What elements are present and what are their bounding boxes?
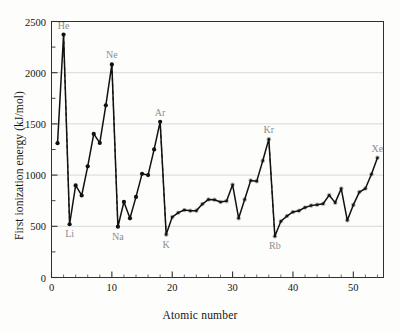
y-tick-label: 2500 bbox=[2, 16, 46, 27]
data-point bbox=[152, 147, 156, 151]
element-label-k: K bbox=[163, 239, 170, 250]
element-label-rb: Rb bbox=[269, 240, 281, 251]
data-point bbox=[219, 201, 222, 204]
ionization-energy-chart: 05001000150020002500 01020304050 HeNeArK… bbox=[0, 0, 400, 333]
data-point bbox=[304, 206, 307, 209]
data-point bbox=[74, 183, 78, 187]
y-tick-label: 2000 bbox=[2, 67, 46, 78]
data-point bbox=[92, 132, 96, 136]
data-point bbox=[298, 209, 301, 212]
data-point bbox=[231, 183, 234, 186]
data-point bbox=[98, 141, 102, 145]
data-point bbox=[262, 160, 265, 163]
element-label-na: Na bbox=[112, 231, 124, 242]
data-point bbox=[280, 220, 283, 223]
data-point bbox=[86, 164, 90, 168]
data-point bbox=[286, 215, 289, 218]
data-point bbox=[255, 180, 258, 183]
element-label-ar: Ar bbox=[155, 107, 166, 118]
data-point bbox=[316, 204, 319, 207]
data-point bbox=[140, 172, 144, 176]
data-point bbox=[171, 216, 174, 219]
data-point-markers bbox=[55, 33, 378, 238]
x-tick-label: 20 bbox=[167, 282, 178, 293]
data-point bbox=[110, 62, 114, 66]
data-point bbox=[122, 200, 126, 204]
plot-frame bbox=[52, 22, 384, 278]
data-point bbox=[128, 216, 132, 220]
ionization-energy-line bbox=[58, 35, 378, 237]
data-point bbox=[80, 193, 84, 197]
data-point bbox=[61, 33, 65, 37]
data-point bbox=[68, 222, 72, 226]
data-point bbox=[158, 120, 162, 124]
x-tick-label: 10 bbox=[107, 282, 118, 293]
element-label-he: He bbox=[58, 20, 70, 31]
data-point bbox=[243, 198, 246, 201]
chart-canvas bbox=[0, 0, 400, 333]
data-point bbox=[352, 204, 355, 207]
element-label-li: Li bbox=[65, 228, 74, 239]
data-point bbox=[346, 219, 349, 222]
minor-tick-marks bbox=[52, 47, 378, 277]
data-point bbox=[310, 204, 313, 207]
x-tick-label: 30 bbox=[227, 282, 238, 293]
data-point bbox=[104, 103, 108, 107]
x-tick-label: 50 bbox=[348, 282, 359, 293]
data-point bbox=[274, 235, 277, 238]
x-tick-label: 40 bbox=[288, 282, 299, 293]
data-point bbox=[177, 211, 180, 214]
x-tick-label: 0 bbox=[49, 282, 54, 293]
data-point bbox=[292, 211, 295, 214]
element-label-xe: Xe bbox=[372, 143, 384, 154]
element-label-ne: Ne bbox=[106, 49, 118, 60]
data-point bbox=[116, 225, 120, 229]
data-point bbox=[189, 210, 192, 213]
data-point bbox=[376, 156, 379, 159]
data-point bbox=[201, 203, 204, 206]
y-tick-label: 0 bbox=[2, 272, 46, 283]
data-point bbox=[340, 187, 343, 190]
data-point bbox=[358, 191, 361, 194]
data-point bbox=[165, 233, 168, 236]
data-point bbox=[328, 194, 331, 197]
data-point bbox=[322, 203, 325, 206]
y-axis-title: First ionization energy (kJ/mol) bbox=[13, 91, 25, 240]
data-point bbox=[268, 138, 271, 141]
data-point bbox=[213, 198, 216, 201]
data-point bbox=[370, 173, 373, 176]
data-point bbox=[249, 179, 252, 182]
data-point bbox=[207, 198, 210, 201]
data-point bbox=[225, 200, 228, 203]
data-point bbox=[183, 209, 186, 212]
data-point bbox=[364, 187, 367, 190]
x-axis-title: Atomic number bbox=[0, 309, 400, 321]
element-label-kr: Kr bbox=[264, 124, 275, 135]
data-point bbox=[146, 173, 150, 177]
data-point bbox=[55, 141, 59, 145]
data-point bbox=[237, 217, 240, 220]
data-point bbox=[134, 195, 138, 199]
data-point bbox=[195, 209, 198, 212]
data-point bbox=[334, 201, 337, 204]
major-tick-marks bbox=[52, 22, 354, 278]
